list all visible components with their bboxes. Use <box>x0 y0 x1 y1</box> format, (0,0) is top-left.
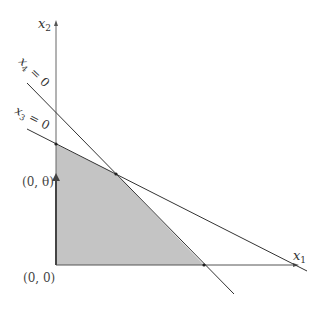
feasible-region-diagram: x2 x1 x4 = 0 x3 = 0 (0, θ) (0, 0) <box>0 0 322 309</box>
x3-line-label: x3 = 0 <box>12 103 52 134</box>
vertex-y-axis <box>54 142 57 145</box>
feasible-region <box>56 144 204 265</box>
vertex-intersection <box>114 172 117 175</box>
theta-point-label: (0, θ) <box>22 175 54 189</box>
x2-axis-label: x2 <box>38 16 51 33</box>
x1-axis-label: x1 <box>293 248 306 265</box>
origin-label: (0, 0) <box>23 271 55 285</box>
vertex-x-axis <box>202 263 205 266</box>
x4-line-label: x4 = 0 <box>15 54 53 91</box>
x2-axis-arrow-icon <box>54 20 58 26</box>
